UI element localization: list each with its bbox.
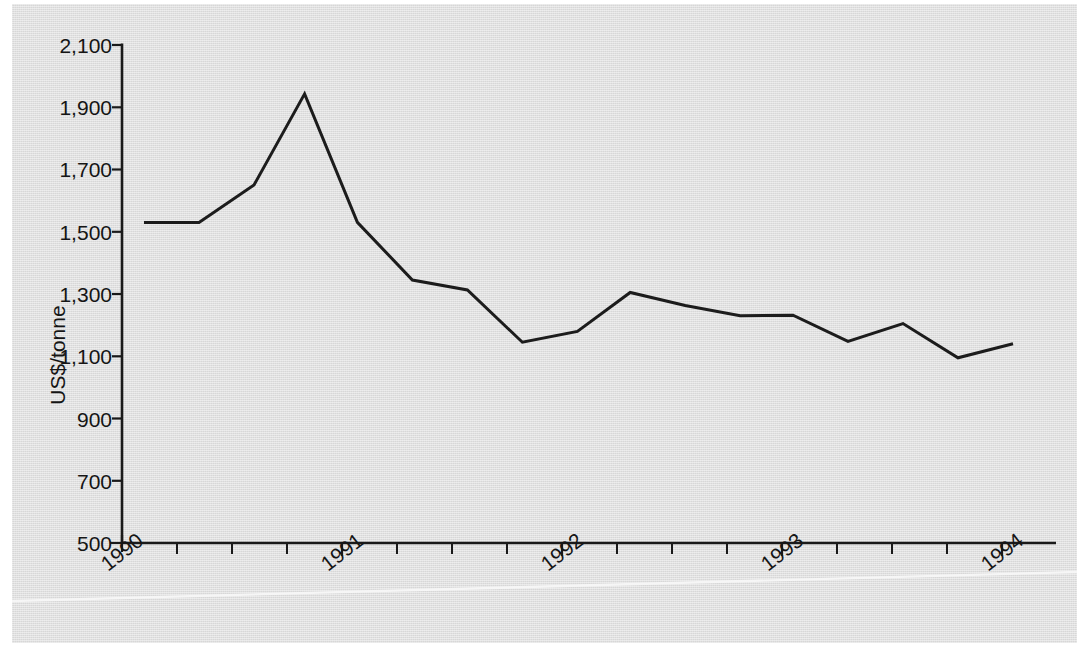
x-tick-label: 1992 (536, 528, 587, 575)
y-tick-label: 2,100 (59, 34, 112, 57)
x-tick-label: 1994 (976, 528, 1027, 575)
x-tick-label: 1993 (756, 528, 807, 575)
y-tick-label: 1,300 (59, 283, 112, 306)
y-tick-label: 1,100 (59, 345, 112, 368)
y-tick-label: 700 (77, 470, 112, 493)
x-tick-label: 1991 (316, 528, 367, 575)
y-tick-label: 1,500 (59, 221, 112, 244)
y-tick-label: 1,900 (59, 96, 112, 119)
line-chart: US$/tonne 2,100 1,900 1,700 1,500 1,300 … (0, 0, 1089, 658)
y-tick-label: 900 (77, 408, 112, 431)
price-series-line (144, 94, 1013, 358)
scan-streak-artifact (12, 572, 1077, 601)
y-tick-label: 1,700 (59, 158, 112, 181)
figure-container: US$/tonne 2,100 1,900 1,700 1,500 1,300 … (0, 0, 1089, 658)
